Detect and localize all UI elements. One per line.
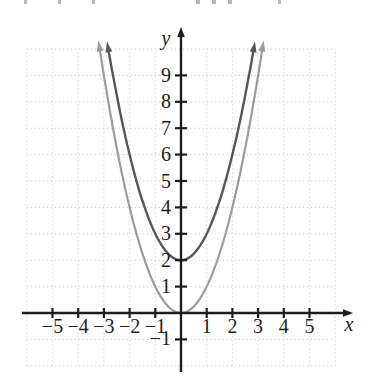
cropped-text-fragment <box>212 0 216 4</box>
cropped-text-fragment <box>228 0 232 4</box>
curve-arrowhead <box>259 41 266 52</box>
y-tick-label: 3 <box>161 222 171 244</box>
y-tick-label: 2 <box>161 249 171 271</box>
y-tick-label: 5 <box>161 170 171 192</box>
y-tick-label: −1 <box>150 327 171 349</box>
cropped-text-fragment <box>58 0 61 4</box>
cropped-text-fragment <box>24 0 27 4</box>
y-tick-label: 7 <box>161 117 171 139</box>
x-tick-label: −3 <box>93 315 114 337</box>
cropped-text-fragment <box>92 0 95 4</box>
x-axis-label: x <box>344 313 354 335</box>
y-axis-arrowhead <box>177 27 185 37</box>
cropped-text-fragment <box>278 0 281 4</box>
x-tick-label: 4 <box>279 315 289 337</box>
x-tick-label: −4 <box>68 315 89 337</box>
parabola-graph: −5−4−3−2−112345−1123456789yx <box>0 0 368 377</box>
x-tick-label: 5 <box>305 315 315 337</box>
graph-figure: −5−4−3−2−112345−1123456789yx <box>0 0 368 377</box>
y-tick-label: 8 <box>161 90 171 112</box>
cropped-text-fragment <box>196 0 200 4</box>
y-tick-label: 1 <box>161 275 171 297</box>
y-axis-label: y <box>160 27 171 50</box>
x-tick-label: 1 <box>202 315 212 337</box>
x-tick-label: −5 <box>42 315 63 337</box>
x-tick-label: 2 <box>227 315 237 337</box>
x-tick-label: −2 <box>119 315 140 337</box>
curve-arrowhead <box>106 41 113 52</box>
y-tick-label: 6 <box>161 143 171 165</box>
curve-arrowhead <box>97 41 104 52</box>
curve-arrowhead <box>250 41 257 52</box>
y-tick-label: 4 <box>161 196 171 218</box>
x-tick-label: 3 <box>253 315 263 337</box>
y-tick-label: 9 <box>161 64 171 86</box>
